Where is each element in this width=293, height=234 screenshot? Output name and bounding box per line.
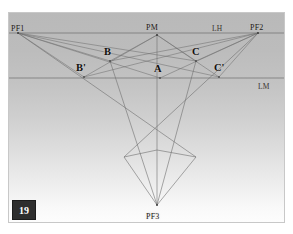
label-lh: LH bbox=[212, 25, 222, 33]
vertex-dot-a bbox=[159, 77, 161, 79]
label-pf1: PF1 bbox=[11, 25, 25, 33]
vertex-dot-c-prime bbox=[218, 76, 220, 78]
ray-right-edge-to-pf3 bbox=[157, 157, 196, 205]
vee-left-segment bbox=[124, 150, 157, 157]
label-c: C bbox=[192, 47, 200, 58]
ray-pm-to-b bbox=[110, 35, 157, 61]
ray-pf1-to-cprime bbox=[18, 33, 219, 77]
label-b: B bbox=[104, 47, 111, 58]
vertex-dot-pf3 bbox=[156, 204, 158, 206]
vertex-dot-pf2 bbox=[257, 32, 259, 34]
label-pf2: PF2 bbox=[250, 24, 264, 32]
ray-left-edge-to-pf3 bbox=[124, 157, 157, 205]
ray-pf1-to-b bbox=[18, 33, 110, 61]
perspective-diagram bbox=[0, 0, 293, 234]
ray-pf2-to-b bbox=[110, 33, 258, 61]
label-lm: LM bbox=[258, 83, 270, 91]
edge-pf2-to-lower-left bbox=[124, 33, 258, 157]
label-pm: PM bbox=[146, 24, 158, 32]
vertex-dot-b-prime bbox=[83, 76, 85, 78]
label-pf3: PF3 bbox=[146, 213, 160, 221]
figure-container: PF1 PF2 PM LH LM PF3 B B' A C C' 19 bbox=[0, 0, 293, 234]
vee-right-segment bbox=[157, 150, 196, 157]
ray-pf2-to-c bbox=[196, 33, 258, 61]
vertex-dot-b bbox=[109, 60, 111, 62]
vertex-dot-c bbox=[195, 60, 197, 62]
label-c-prime: C' bbox=[214, 63, 225, 74]
figure-number-badge: 19 bbox=[13, 201, 35, 219]
label-b-prime: B' bbox=[76, 63, 86, 74]
ray-c-to-pf3 bbox=[157, 61, 196, 205]
label-a: A bbox=[154, 64, 162, 75]
vertex-dot-pm bbox=[156, 34, 158, 36]
